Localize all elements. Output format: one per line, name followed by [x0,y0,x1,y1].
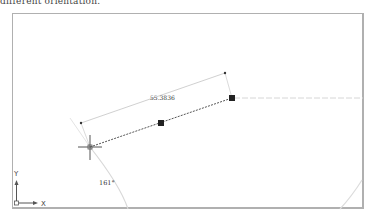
angle-value: 161° [99,179,115,187]
dimension-value: 55.3836 [150,94,175,101]
drawing-canvas[interactable]: 55.3836 161° Y X [0,0,374,219]
midpoint-grip[interactable] [158,120,164,126]
endpoint-grip[interactable] [229,95,235,101]
dimension-point-left [80,122,82,124]
ucs-icon [15,180,39,205]
dimension-extension-right [225,73,232,98]
crosshair-cursor-icon [78,135,102,160]
dimension-point-right [224,72,226,74]
tracking-arc-right [340,180,362,209]
ucs-y-label: Y [13,170,19,178]
dimension-extension-left [81,123,90,147]
angle-arc [90,147,128,209]
ucs-x-label: X [41,200,46,208]
